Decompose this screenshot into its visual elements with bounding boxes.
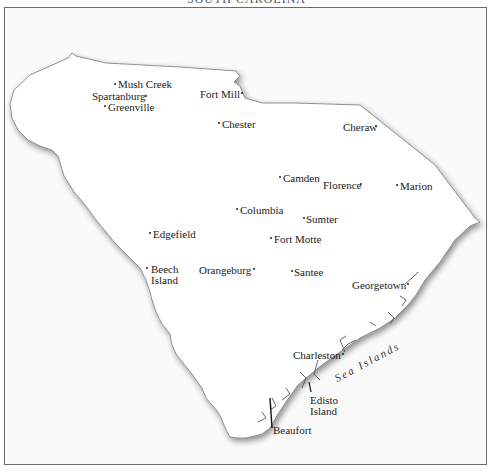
place-label-mush-creek: Mush Creek xyxy=(118,78,172,90)
place-label-edisto-island: Island xyxy=(310,405,337,417)
place-label-camden: Camden xyxy=(283,172,320,184)
place-label-sumter: Sumter xyxy=(306,213,338,225)
place-label-fort-mill: Fort Mill xyxy=(200,88,240,100)
place-label-cheraw: Cheraw xyxy=(343,121,377,133)
place-label-greenville: Greenville xyxy=(108,101,154,113)
state-outline xyxy=(10,53,480,438)
place-label-santee: Santee xyxy=(294,266,323,278)
place-label-beech-island: Island xyxy=(151,274,178,286)
place-label-edgefield: Edgefield xyxy=(153,228,196,240)
place-label-columbia: Columbia xyxy=(240,204,283,216)
south-carolina-map xyxy=(0,0,493,473)
place-label-beaufort: Beaufort xyxy=(273,424,311,436)
place-label-georgetown: Georgetown xyxy=(352,279,406,291)
place-label-florence: Florence xyxy=(323,179,361,191)
place-label-marion: Marion xyxy=(400,180,432,192)
place-label-fort-motte: Fort Motte xyxy=(274,233,321,245)
place-label-orangeburg: Orangeburg xyxy=(199,264,251,276)
place-label-chester: Chester xyxy=(222,118,256,130)
place-label-charleston: Charleston xyxy=(293,349,341,361)
